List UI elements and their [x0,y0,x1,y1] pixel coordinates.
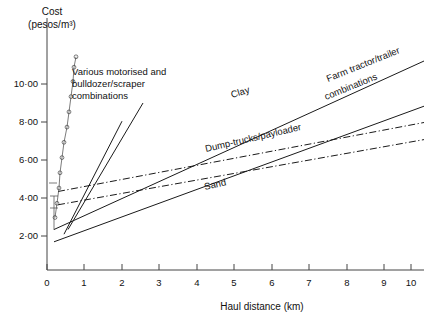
x-tick-marks [47,264,411,270]
x-tick-label-7: 7 [306,277,311,288]
series-line-farm-tractor-trailer-1 [68,103,143,230]
chart-container: 10·00 8·00 6·00 4·00 2·00 0 1 2 3 4 5 6 … [0,0,431,320]
y-tick-marks [41,84,47,236]
y-tick-label-2: 2·00 [19,230,38,241]
series-line-farm-tractor-trailer-2 [64,121,122,234]
annotation-line-3: combinations [72,90,128,101]
x-tick-label-6: 6 [269,277,274,288]
x-tick-label-0: 0 [44,277,49,288]
y-tick-label-8: 8·00 [19,116,38,127]
x-tick-label-4: 4 [194,277,199,288]
x-tick-label-3: 3 [156,277,161,288]
chart-svg: 10·00 8·00 6·00 4·00 2·00 0 1 2 3 4 5 6 … [0,0,431,320]
x-tick-label-8: 8 [344,277,349,288]
series-line-dump-trucks-payloader [58,123,424,192]
x-tick-label-5: 5 [231,277,236,288]
series-label-dump-trucks-payloader: Dump-trucks/payloader [204,121,302,154]
annotation-line-1: Various motorised and [72,66,166,77]
x-tick-label-1: 1 [81,277,86,288]
series-line-sand [54,106,424,242]
y-tick-label-4: 4·00 [19,192,38,203]
x-axis-title: Haul distance (km) [220,301,303,312]
series-line-dump-trucks-payloader-lower [58,140,424,205]
y-axis-title-line1: Cost [42,6,63,17]
y-tick-label-6: 6·00 [19,154,38,165]
x-tick-label-9: 9 [381,277,386,288]
annotation-line-2: bulldozer/scraper [72,78,145,89]
series-label-clay: Clay [229,84,251,100]
y-tick-label-10: 10·00 [14,78,38,89]
x-tick-label-2: 2 [119,277,124,288]
y-axis-title-line2: (pesos/m³) [28,19,76,30]
x-tick-label-10: 10 [406,277,417,288]
